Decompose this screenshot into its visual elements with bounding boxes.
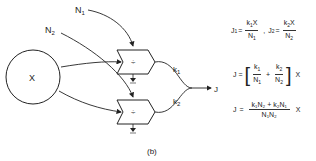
source-label: X <box>29 73 35 83</box>
ground-icon <box>130 128 136 132</box>
k2-label: k2 <box>173 97 181 107</box>
divider-block-top <box>117 50 155 83</box>
figure-caption: (b) <box>147 147 157 156</box>
k1-label: k1 <box>173 65 181 75</box>
edge-n1-to-top-divider <box>88 10 133 46</box>
edge-x-to-top-divider <box>61 62 121 67</box>
ground-icon <box>130 78 136 82</box>
divider-block-bottom <box>117 100 155 133</box>
output-j-label: J <box>214 85 218 94</box>
edge-x-to-bottom-divider <box>59 91 121 112</box>
input-n2-label: N2 <box>45 25 56 36</box>
input-n1-label: N1 <box>75 5 86 16</box>
divide-symbol-bottom: ÷ <box>131 108 136 117</box>
equation-j-combined: J = k₁N₂ + k₂N₁N₁N₂ X <box>233 100 301 119</box>
equation-j-sum: J = [ k1N1 + k2N2 ] X <box>233 62 300 87</box>
equation-j1-j2: J1 = k1XN1 , J2 = k2XN2 <box>231 18 298 43</box>
divide-symbol-top: ÷ <box>131 58 136 67</box>
